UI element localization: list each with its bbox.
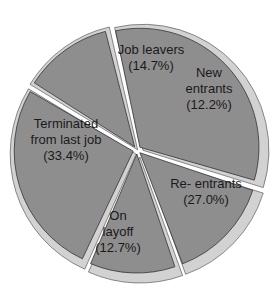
pie-chart: Terminatedfrom last job(33.4%)Job leaver…: [0, 0, 278, 299]
